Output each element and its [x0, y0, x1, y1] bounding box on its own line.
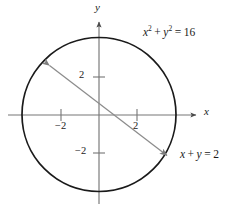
y-axis-label: y	[95, 2, 100, 13]
coordinate-plane-svg	[0, 0, 233, 207]
line-eq-var-x: x	[180, 148, 185, 160]
line-eq-rhs: 2	[213, 148, 219, 160]
circle-eq-plus: +	[154, 26, 161, 38]
x-tick-label-pos2: 2	[133, 121, 138, 132]
y-tick-label-neg2: −2	[75, 146, 86, 157]
circle-equation-label: x2+y2=16	[143, 27, 195, 39]
x-tick-label-neg2: −2	[55, 121, 66, 132]
line-curve	[50, 66, 168, 156]
line-equation-label: x+y=2	[180, 149, 219, 161]
circle-eq-rhs: 16	[184, 26, 196, 38]
line-eq-plus: +	[188, 148, 195, 160]
circle-eq-exp-y: 2	[168, 24, 172, 33]
circle-eq-exp-x: 2	[148, 24, 152, 33]
x-axis-label: x	[204, 106, 209, 117]
line-eq-var-y: y	[197, 148, 202, 160]
graph-figure: y x −2 2 2 −2 x2+y2=16 x+y=2	[0, 0, 233, 207]
circle-eq-equals: =	[175, 26, 182, 38]
line-eq-equals: =	[204, 148, 211, 160]
y-tick-label-pos2: 2	[79, 70, 84, 81]
